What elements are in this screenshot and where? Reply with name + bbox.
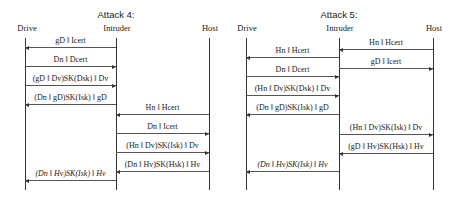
message-label: Dn ‖ Dcert xyxy=(54,55,88,64)
arrow-left-icon xyxy=(25,46,29,50)
arrow-right-icon xyxy=(112,65,116,69)
message-label: Hn ‖ Hcert xyxy=(276,46,310,55)
message-label: (Hn ‖ Dv)SK(Isk) ‖ Dv xyxy=(126,141,198,150)
message-label: (Hn ‖ Dv)SK(Isk) ‖ Dv xyxy=(350,123,422,132)
message-arrow xyxy=(25,47,116,48)
message-arrow xyxy=(25,180,116,181)
message-label: (Dn ‖ Hv)SK(Isk) ‖ Hv xyxy=(257,160,327,169)
message-arrow xyxy=(246,171,339,172)
message-arrow xyxy=(25,85,116,86)
lifeline-intruder xyxy=(339,38,340,190)
actor-label-host: Host xyxy=(426,23,442,33)
message-label: gD ‖ Icert xyxy=(371,57,402,66)
message-arrow xyxy=(116,152,209,153)
arrow-left-icon xyxy=(25,179,29,183)
arrow-left-icon xyxy=(339,48,343,52)
message-label: (Dn ‖ Hv)SK(Isk) ‖ Hv xyxy=(35,169,105,178)
message-arrow xyxy=(116,171,209,172)
actor-label-drive: Drive xyxy=(237,23,256,33)
lifeline-host xyxy=(209,38,210,190)
message-label: Dn ‖ Icert xyxy=(147,122,178,131)
arrow-left-icon xyxy=(25,103,29,107)
message-arrow xyxy=(246,95,339,96)
message-label: gD ‖ Icert xyxy=(55,36,86,45)
diagram-title: Attack 5: xyxy=(321,9,358,20)
message-label: (gD ‖ Hv)SK(Hsk) ‖ Hv xyxy=(348,142,424,151)
diagram-title: Attack 4: xyxy=(98,9,135,20)
message-label: (Dn ‖ gD)SK(Isk) ‖ gD xyxy=(34,93,106,102)
arrow-left-icon xyxy=(246,56,250,60)
message-arrow xyxy=(116,114,209,115)
arrow-left-icon xyxy=(116,113,120,117)
arrow-right-icon xyxy=(205,151,209,155)
message-label: Dn ‖ Dcert xyxy=(276,65,310,74)
arrow-right-icon xyxy=(335,75,339,79)
actor-label-host: Host xyxy=(202,23,218,33)
message-label: (Dn ‖ Hv)SK(Hsk) ‖ Hv xyxy=(125,160,201,169)
message-arrow xyxy=(339,68,433,69)
message-label: Hn ‖ Hcert xyxy=(146,103,180,112)
message-label: (Dn ‖ gD)SK(Isk) ‖ gD xyxy=(256,103,328,112)
arrow-left-icon xyxy=(116,170,120,174)
message-arrow xyxy=(246,114,339,115)
arrow-left-icon xyxy=(246,170,250,174)
message-arrow xyxy=(339,49,433,50)
actor-label-drive: Drive xyxy=(17,23,36,33)
message-arrow xyxy=(246,76,339,77)
arrow-right-icon xyxy=(112,84,116,88)
actor-label-intruder: Intruder xyxy=(326,23,353,33)
message-arrow xyxy=(339,134,433,135)
message-arrow xyxy=(25,104,116,105)
message-arrow xyxy=(246,57,339,58)
lifeline-host xyxy=(433,38,434,190)
lifeline-drive xyxy=(25,38,26,190)
arrow-right-icon xyxy=(335,94,339,98)
message-label: (Hn ‖ Dv)SK(Dsk) ‖ Dv xyxy=(255,84,331,93)
message-arrow xyxy=(339,153,433,154)
actor-label-intruder: Intruder xyxy=(103,23,130,33)
message-label: (gD ‖ Dv)SK(Dsk) ‖ Dv xyxy=(33,74,109,83)
message-arrow xyxy=(25,66,116,67)
message-label: Hn ‖ Hcert xyxy=(369,38,403,47)
arrow-left-icon xyxy=(339,152,343,156)
message-arrow xyxy=(116,133,209,134)
arrow-right-icon xyxy=(429,67,433,71)
arrow-right-icon xyxy=(429,133,433,137)
arrow-left-icon xyxy=(246,113,250,117)
arrow-right-icon xyxy=(205,132,209,136)
